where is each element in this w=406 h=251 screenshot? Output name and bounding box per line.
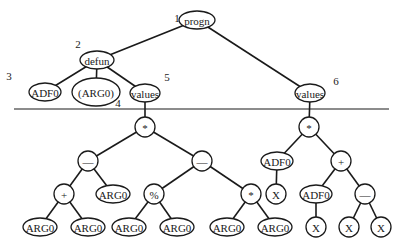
tree-node-x3: X: [339, 217, 359, 237]
node-label: X: [312, 222, 320, 234]
edge-progn-to-defun: [97, 20, 197, 60]
node-label: —: [82, 156, 95, 168]
tree-node-adf0_name: ADF0: [29, 83, 61, 101]
node-label: ARG0: [26, 222, 55, 234]
tree-node-adf0_call2: ADF0: [300, 185, 332, 203]
node-label: (ARG0): [78, 87, 114, 100]
node-label: ARG0: [261, 222, 290, 234]
node-label: ARG0: [74, 222, 103, 234]
edge-progn-to-values_rpb: [197, 20, 310, 93]
node-label: —: [359, 189, 372, 201]
tree-node-plus_rpb: +: [331, 151, 351, 171]
tree-node-arg0_g: ARG0: [258, 218, 292, 236]
tree-node-arg0_c: ARG0: [71, 218, 105, 236]
node-label: values: [296, 88, 324, 100]
node-label: defun: [84, 55, 110, 67]
tree-node-plus_adf: +: [54, 184, 74, 204]
node-label: ARG0: [213, 222, 242, 234]
node-label: X: [345, 222, 353, 234]
tree-node-x4: X: [371, 217, 391, 237]
node-label: values: [131, 88, 159, 100]
node-label: progn: [184, 15, 210, 27]
node-label: ADF0: [31, 87, 59, 99]
annotation-number-4: 4: [115, 97, 121, 109]
tree-node-arg0_b: ARG0: [23, 218, 57, 236]
annotation-number-6: 6: [333, 75, 339, 87]
tree-node-arg0_d: ARG0: [112, 218, 146, 236]
tree-node-arg0_a: ARG0: [96, 185, 130, 203]
tree-node-mod_adf: %: [144, 184, 164, 204]
annotation-number-2: 2: [75, 38, 81, 50]
node-label: X: [377, 222, 385, 234]
node-label: ADF0: [302, 189, 330, 201]
node-label: ARG0: [99, 189, 128, 201]
node-label: *: [306, 122, 312, 134]
node-label: *: [248, 189, 254, 201]
tree-node-sub_rpb: —: [355, 184, 375, 204]
tree-node-mul_adf: *: [135, 117, 155, 137]
tree-node-sub_right: —: [192, 151, 212, 171]
annotation-number-3: 3: [6, 70, 12, 82]
tree-node-arg0_e: ARG0: [160, 218, 194, 236]
node-label: X: [272, 189, 280, 201]
node-label: %: [149, 189, 158, 201]
program-tree-diagram: progndefunADF0(ARG0)valuesvalues*——+ARG0…: [0, 0, 406, 251]
tree-node-sub_left: —: [78, 151, 98, 171]
tree-node-x2: X: [306, 217, 326, 237]
node-label: +: [338, 156, 344, 168]
tree-node-progn: progn: [179, 11, 215, 29]
node-label: ADF0: [263, 156, 291, 168]
node-label: ARG0: [115, 222, 144, 234]
tree-node-values_adf: values: [130, 84, 160, 102]
node-label: ARG0: [163, 222, 192, 234]
tree-node-defun: defun: [80, 51, 114, 69]
node-label: *: [142, 122, 148, 134]
tree-node-mul_adf2: *: [241, 184, 261, 204]
node-label: —: [196, 156, 209, 168]
tree-node-adf0_call1: ADF0: [261, 152, 293, 170]
annotation-number-1: 1: [174, 12, 180, 24]
tree-node-x1: X: [266, 184, 286, 204]
tree-node-values_rpb: values: [295, 84, 325, 102]
annotation-number-5: 5: [164, 71, 170, 83]
tree-node-arglist: (ARG0): [72, 78, 120, 106]
node-label: +: [61, 189, 67, 201]
tree-node-arg0_f: ARG0: [210, 218, 244, 236]
tree-node-mul_rpb: *: [299, 117, 319, 137]
